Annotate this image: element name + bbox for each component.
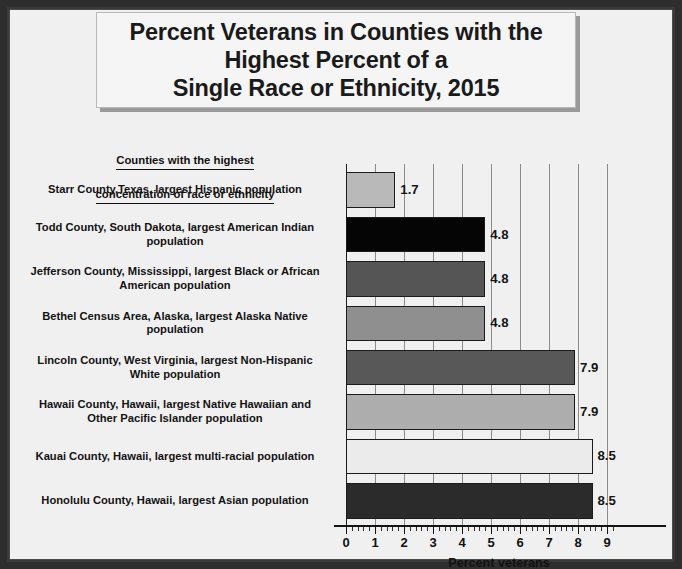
- x-tick-minor: [566, 527, 567, 531]
- x-tick-minor: [410, 527, 411, 531]
- x-tick-major: [549, 527, 550, 534]
- x-tick-minor: [561, 527, 562, 531]
- bar: [346, 306, 485, 342]
- x-tick-minor: [532, 527, 533, 531]
- x-tick-minor: [398, 527, 399, 531]
- bar: [346, 439, 593, 475]
- x-tick-minor: [358, 527, 359, 531]
- x-tick-minor: [543, 527, 544, 531]
- x-tick-label: 5: [487, 535, 494, 550]
- x-tick-minor: [503, 527, 504, 531]
- x-tick-label: 1: [371, 535, 378, 550]
- x-tick-minor: [497, 527, 498, 531]
- category-label: Bethel Census Area, Alaska, largest Alas…: [24, 301, 333, 345]
- bar-value-label: 4.8: [490, 227, 508, 242]
- bar-value-label: 7.9: [580, 360, 598, 375]
- x-tick-minor: [392, 527, 393, 531]
- x-tick-major: [404, 527, 405, 534]
- x-tick-label: 0: [342, 535, 349, 550]
- plot-area: 1.74.84.84.87.97.98.58.5 Percent veteran…: [334, 164, 664, 532]
- x-tick-major: [462, 527, 463, 534]
- x-tick-minor: [381, 527, 382, 531]
- x-tick-label: 2: [400, 535, 407, 550]
- category-label: Todd County, South Dakota, largest Ameri…: [24, 212, 333, 256]
- bar-value-label: 1.7: [400, 182, 418, 197]
- x-tick-minor: [369, 527, 370, 531]
- x-tick-minor: [479, 527, 480, 531]
- x-tick-minor: [601, 527, 602, 531]
- x-tick-minor: [387, 527, 388, 531]
- x-tick-label: 9: [603, 535, 610, 550]
- title-box: Percent Veterans in Counties with the Hi…: [96, 12, 576, 108]
- category-label: Lincoln County, West Virginia, largest N…: [24, 346, 333, 390]
- category-label: Honolulu County, Hawaii, largest Asian p…: [24, 479, 333, 523]
- x-tick-minor: [590, 527, 591, 531]
- category-label: Jefferson County, Mississippi, largest B…: [24, 257, 333, 301]
- x-tick-minor: [456, 527, 457, 531]
- chart-screenshot: Percent Veterans in Counties with the Hi…: [0, 0, 682, 569]
- x-tick-major: [607, 527, 608, 534]
- bar: [346, 394, 575, 430]
- x-tick-major: [375, 527, 376, 534]
- category-label: Kauai County, Hawaii, largest multi-raci…: [24, 434, 333, 478]
- x-tick-minor: [474, 527, 475, 531]
- x-tick-major: [346, 527, 347, 534]
- bar: [346, 261, 485, 297]
- x-tick-label: 6: [516, 535, 523, 550]
- x-tick-minor: [416, 527, 417, 531]
- bar-value-label: 8.5: [598, 448, 616, 463]
- bar-value-label: 8.5: [598, 493, 616, 508]
- plot-inner: 1.74.84.84.87.97.98.58.5: [334, 164, 664, 525]
- x-tick-minor: [595, 527, 596, 531]
- category-label: Hawaii County, Hawaii, largest Native Ha…: [24, 390, 333, 434]
- x-axis-line: [334, 525, 666, 527]
- x-tick-minor: [526, 527, 527, 531]
- category-label: Starr County,Texas, largest Hispanic pop…: [24, 168, 333, 212]
- gridline-9: [607, 164, 608, 525]
- x-tick-label: 3: [429, 535, 436, 550]
- x-tick-minor: [363, 527, 364, 531]
- x-tick-minor: [485, 527, 486, 531]
- x-tick-minor: [572, 527, 573, 531]
- bar-value-label: 4.8: [490, 271, 508, 286]
- x-tick-minor: [537, 527, 538, 531]
- x-tick-minor: [445, 527, 446, 531]
- bar: [346, 172, 395, 208]
- x-tick-minor: [514, 527, 515, 531]
- x-tick-minor: [613, 527, 614, 531]
- bar: [346, 350, 575, 386]
- x-tick-major: [433, 527, 434, 534]
- x-tick-major: [520, 527, 521, 534]
- x-tick-minor: [555, 527, 556, 531]
- x-axis-label: Percent veterans: [334, 556, 664, 569]
- bar-value-label: 7.9: [580, 404, 598, 419]
- x-tick-label: 7: [545, 535, 552, 550]
- bar: [346, 483, 593, 519]
- bar-chart: Starr County,Texas, largest Hispanic pop…: [24, 164, 664, 532]
- bar: [346, 217, 485, 253]
- x-tick-minor: [421, 527, 422, 531]
- x-tick-minor: [439, 527, 440, 531]
- x-tick-minor: [468, 527, 469, 531]
- category-labels: Starr County,Texas, largest Hispanic pop…: [24, 164, 333, 532]
- x-tick-major: [578, 527, 579, 534]
- x-tick-minor: [508, 527, 509, 531]
- x-tick-major: [491, 527, 492, 534]
- bar-value-label: 4.8: [490, 315, 508, 330]
- x-tick-minor: [352, 527, 353, 531]
- x-tick-minor: [584, 527, 585, 531]
- page-title: Percent Veterans in Counties with the Hi…: [123, 18, 548, 103]
- x-tick-minor: [427, 527, 428, 531]
- x-tick-minor: [450, 527, 451, 531]
- x-tick-label: 8: [574, 535, 581, 550]
- x-tick-label: 4: [458, 535, 465, 550]
